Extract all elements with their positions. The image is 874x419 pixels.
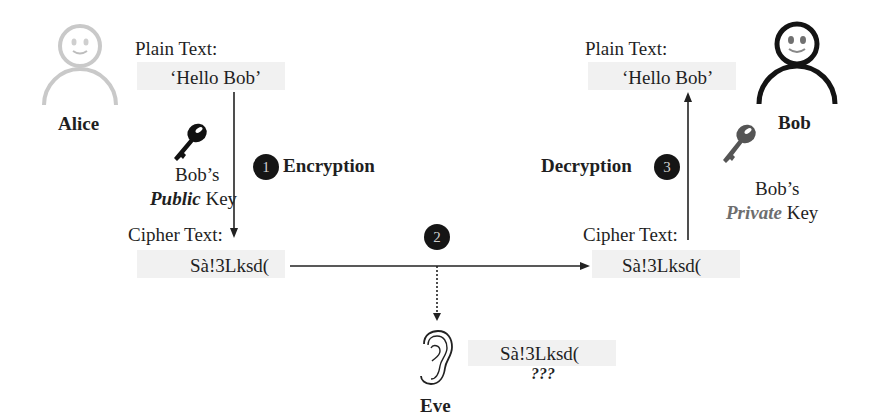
- alice-plain-text-label: Plain Text:: [135, 38, 217, 60]
- eve-label: Eve: [420, 395, 451, 417]
- bob-plain-text-label: Plain Text:: [585, 38, 667, 60]
- private-key-word: Key: [787, 202, 819, 223]
- private-key-type: Private: [726, 202, 782, 223]
- private-key-owner: Bob’s: [755, 178, 799, 200]
- private-key-icon: [719, 122, 759, 166]
- step-1-badge: 1: [253, 154, 279, 180]
- public-key-type: Public: [150, 188, 201, 209]
- bob-cipher-text-label: Cipher Text:: [583, 224, 678, 246]
- eavesdrop-arrow: [431, 266, 443, 326]
- alice-cipher-text-value: Sà!3Lksd(: [190, 255, 269, 277]
- eve-intercepted-value: Sà!3Lksd(: [500, 343, 579, 365]
- bob-plain-text-value: ‘Hello Bob’: [622, 67, 713, 89]
- step-2-badge: 2: [424, 224, 450, 250]
- alice-plain-text-value: ‘Hello Bob’: [170, 67, 261, 89]
- bob-label: Bob: [778, 112, 811, 134]
- public-key-icon: [170, 122, 210, 164]
- alice-avatar-icon: [40, 10, 120, 110]
- eve-unknown: ???: [531, 363, 555, 385]
- bob-avatar-icon: [755, 10, 839, 110]
- alice-label: Alice: [58, 113, 99, 135]
- step-3-badge: 3: [654, 154, 680, 180]
- alice-cipher-text-label: Cipher Text:: [128, 224, 223, 246]
- public-key-caption: Public Key: [150, 188, 237, 210]
- eve-ear-icon: [418, 330, 454, 386]
- private-key-caption: Private Key: [726, 202, 818, 224]
- decryption-arrow: [682, 92, 694, 242]
- public-key-word: Key: [205, 188, 237, 209]
- step-1-label: Encryption: [283, 155, 375, 177]
- step-3-label: Decryption: [541, 155, 632, 177]
- encryption-arrow: [228, 92, 240, 242]
- bob-cipher-text-value: Sà!3Lksd(: [622, 255, 701, 277]
- public-key-owner: Bob’s: [175, 164, 219, 186]
